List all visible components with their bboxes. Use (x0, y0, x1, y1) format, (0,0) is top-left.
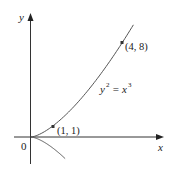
upper-branch-curve (31, 25, 133, 137)
y-axis-label: y (18, 11, 24, 23)
point-1-1-label: (1, 1) (57, 125, 80, 137)
lower-branch-curve (31, 137, 65, 159)
equation-label: y 2 = x 3 (99, 81, 132, 95)
equation-rhs: x (121, 83, 127, 95)
equation-lhs: y (99, 83, 105, 95)
y-axis-arrow-icon (28, 13, 34, 21)
equation-rhs-exponent: 3 (128, 81, 132, 89)
point-1-1-marker (52, 125, 55, 128)
cusp-curve-plot: y x 0 (1, 1) (4, 8) y 2 = x 3 (0, 0, 174, 172)
point-4-8-marker (121, 41, 124, 44)
x-axis-arrow-icon (156, 134, 164, 140)
x-axis-label: x (157, 141, 163, 153)
origin-label: 0 (21, 140, 27, 152)
equation-equals: = (110, 83, 122, 95)
point-4-8-label: (4, 8) (125, 41, 148, 53)
